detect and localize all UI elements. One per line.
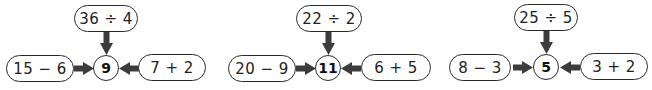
left-arrow-icon: [560, 61, 580, 74]
left-expression: 8 − 3: [449, 54, 511, 81]
down-arrow-icon: [540, 31, 553, 54]
answer-circle: 5: [533, 54, 559, 80]
expression-web-3: 25 ÷ 5 8 − 3 5 3 + 2: [0, 0, 652, 90]
top-expression: 25 ÷ 5: [514, 4, 578, 31]
right-arrow-icon: [513, 61, 533, 74]
right-expression: 3 + 2: [580, 53, 648, 80]
